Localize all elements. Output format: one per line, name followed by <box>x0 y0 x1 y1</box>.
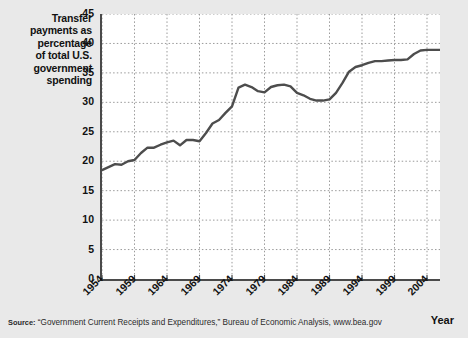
chart-canvas <box>102 14 440 279</box>
y-axis-tick-label: 10 <box>6 213 94 225</box>
plot-frame <box>100 14 440 281</box>
y-axis-tick-label: 40 <box>6 36 94 48</box>
y-axis-tick-label: 35 <box>6 66 94 78</box>
y-axis-tick-label: 15 <box>6 184 94 196</box>
source-label: Source: <box>8 318 36 327</box>
y-axis-tick-label: 25 <box>6 125 94 137</box>
y-axis-tick-label: 20 <box>6 154 94 166</box>
y-axis-caption-line: payments as <box>8 24 92 36</box>
plot-area <box>102 14 440 279</box>
y-axis-tick-label: 5 <box>6 243 94 255</box>
source-text: “Government Current Receipts and Expendi… <box>36 318 382 327</box>
y-axis-tick-label: 30 <box>6 95 94 107</box>
y-axis-caption-line: of total U.S. <box>8 49 92 61</box>
y-axis-tick-label: 45 <box>6 7 94 19</box>
chart-figure: Transfer payments as percentage of total… <box>0 0 468 338</box>
data-series-line <box>102 50 440 170</box>
source-note: Source: “Government Current Receipts and… <box>8 318 382 327</box>
y-axis-tick-label: 0 <box>6 272 94 284</box>
x-axis-title: Year <box>431 314 454 326</box>
